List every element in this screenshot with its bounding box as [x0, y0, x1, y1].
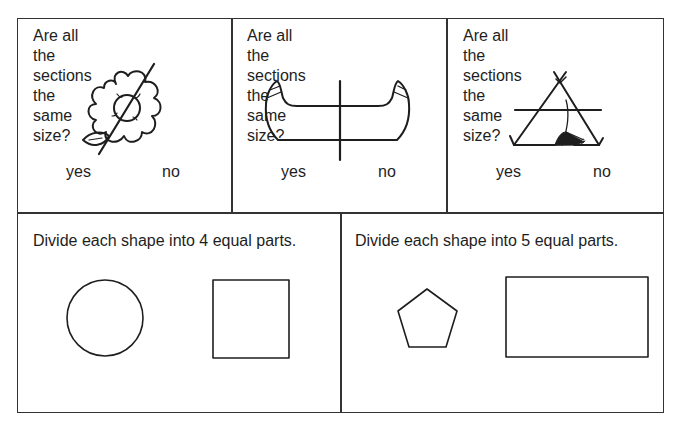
pentagon-shape[interactable] — [398, 289, 457, 347]
tent-icon — [510, 72, 603, 145]
worksheet-artwork — [0, 0, 677, 434]
canoe-icon — [266, 81, 409, 160]
circle-shape[interactable] — [67, 280, 143, 356]
rectangle-shape[interactable] — [506, 277, 648, 357]
flower-icon — [83, 64, 161, 154]
square-shape[interactable] — [213, 280, 289, 358]
